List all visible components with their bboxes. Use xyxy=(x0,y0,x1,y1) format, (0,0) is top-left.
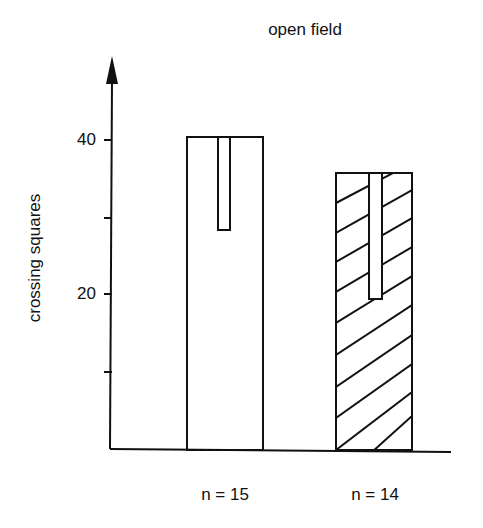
chart-canvas xyxy=(0,0,483,528)
y-axis xyxy=(104,56,118,449)
bar-group1 xyxy=(187,137,263,450)
error-bar-group1 xyxy=(218,137,230,230)
error-bar-group2 xyxy=(369,173,382,299)
bar-group2 xyxy=(336,163,412,452)
axis-arrow-icon xyxy=(106,56,118,84)
